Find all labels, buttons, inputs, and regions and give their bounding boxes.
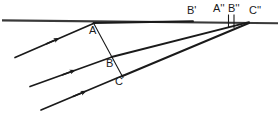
point-label-B: B [106, 58, 113, 69]
point-label-A-double-prime: A'' [213, 3, 225, 14]
parallel-line-2-arrow [62, 71, 73, 75]
point-label-B-prime: B' [187, 5, 196, 16]
geometry-canvas [0, 0, 280, 118]
point-label-B-double-prime: B'' [228, 3, 240, 14]
point-label-C: C [115, 76, 123, 87]
parallel-line-3-arrow [73, 92, 84, 97]
parallel-line-1-arrow [46, 39, 57, 44]
geometry-diagram: A B C B' A'' B'' C'' [0, 0, 280, 118]
transversal-ABC [94, 23, 124, 78]
point-label-A: A [89, 25, 96, 36]
point-label-C-double-prime: C'' [249, 5, 261, 16]
